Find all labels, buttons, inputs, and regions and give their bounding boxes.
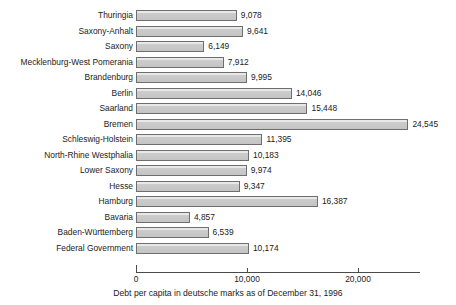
bar [136, 165, 247, 176]
chart-row: Saxony6,149 [0, 41, 456, 57]
chart-row: Bavaria4,857 [0, 212, 456, 228]
bar-value-label: 11,395 [266, 134, 291, 145]
bar-value-label: 9,078 [241, 10, 262, 21]
category-label: Saxony-Anhalt [79, 26, 133, 37]
bar-value-label: 9,995 [251, 72, 272, 83]
bar-value-label: 14,046 [296, 88, 322, 99]
category-label: Bavaria [105, 212, 133, 223]
category-label: Mecklenburg-West Pomerania [21, 57, 134, 68]
category-label: North-Rhine Westphalia [44, 150, 133, 161]
x-axis-tick [358, 268, 359, 273]
bar-value-label: 15,448 [311, 103, 337, 114]
bar [136, 119, 408, 130]
chart-row: Baden-Württemberg6,539 [0, 227, 456, 243]
x-axis-tick-label: 0 [134, 274, 139, 284]
bar [136, 181, 240, 192]
chart-row: North-Rhine Westphalia10,183 [0, 150, 456, 166]
bar-value-label: 24,545 [412, 119, 438, 130]
category-label: Schleswig-Holstein [62, 134, 133, 145]
category-label: Saxony [105, 41, 133, 52]
bar-value-label: 10,174 [253, 243, 279, 254]
x-axis-tick-label: 20,000 [345, 274, 371, 284]
chart-row: Federal Government10,174 [0, 243, 456, 259]
category-label: Federal Government [56, 243, 133, 254]
chart-rows: Thuringia9,078Saxony-Anhalt9,641Saxony6,… [0, 10, 456, 258]
bar-value-label: 7,912 [228, 57, 249, 68]
bar [136, 57, 224, 68]
bar-value-label: 9,641 [247, 26, 268, 37]
category-label: Berlin [112, 88, 133, 99]
bar [136, 72, 247, 83]
chart-row: Saarland15,448 [0, 103, 456, 119]
category-label: Saarland [99, 103, 133, 114]
bar-value-label: 6,149 [208, 41, 229, 52]
bar [136, 26, 243, 37]
category-label: Hamburg [99, 196, 133, 207]
chart-row: Thuringia9,078 [0, 10, 456, 26]
x-axis-line [136, 272, 420, 273]
chart-row: Mecklenburg-West Pomerania7,912 [0, 57, 456, 73]
category-label: Lower Saxony [80, 165, 133, 176]
bar [136, 150, 249, 161]
bar [136, 41, 204, 52]
category-label: Baden-Württemberg [58, 227, 133, 238]
category-label: Brandenburg [85, 72, 133, 83]
bar [136, 212, 190, 223]
x-axis-tick [247, 268, 248, 273]
bar-value-label: 9,974 [251, 165, 272, 176]
bar [136, 88, 292, 99]
category-label: Hesse [109, 181, 133, 192]
bar [136, 10, 237, 21]
bar [136, 227, 209, 238]
chart-caption: Debt per capita in deutsche marks as of … [0, 288, 456, 299]
bar-value-label: 16,387 [322, 196, 348, 207]
bar [136, 243, 249, 254]
bar [136, 103, 307, 114]
bar-value-label: 6,539 [213, 227, 234, 238]
chart-row: Bremen24,545 [0, 119, 456, 135]
bar-value-label: 9,347 [244, 181, 265, 192]
chart-row: Schleswig-Holstein11,395 [0, 134, 456, 150]
category-label: Thuringia [98, 10, 133, 21]
chart-row: Brandenburg9,995 [0, 72, 456, 88]
bar-chart: Thuringia9,078Saxony-Anhalt9,641Saxony6,… [0, 0, 456, 305]
chart-row: Lower Saxony9,974 [0, 165, 456, 181]
chart-row: Hamburg16,387 [0, 196, 456, 212]
chart-row: Hesse9,347 [0, 181, 456, 197]
bar-value-label: 4,857 [194, 212, 215, 223]
x-axis-tick-label: 10,000 [234, 274, 260, 284]
bar-value-label: 10,183 [253, 150, 279, 161]
bar [136, 196, 318, 207]
category-label: Bremen [104, 119, 133, 130]
chart-row: Saxony-Anhalt9,641 [0, 26, 456, 42]
chart-row: Berlin14,046 [0, 88, 456, 104]
bar [136, 134, 262, 145]
